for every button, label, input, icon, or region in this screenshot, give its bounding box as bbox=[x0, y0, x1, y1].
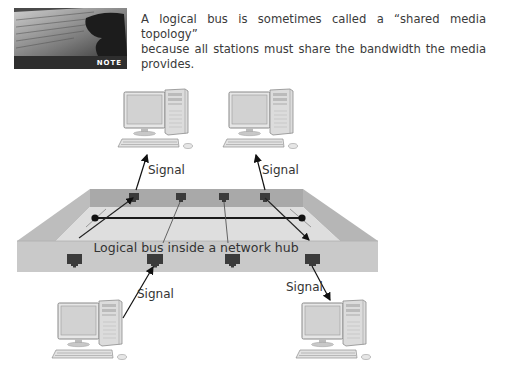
computer-bottom-right-icon bbox=[296, 300, 371, 360]
signal-label-top-right: Signal bbox=[262, 163, 299, 177]
signal-label-bottom-right: Signal bbox=[286, 280, 323, 294]
signal-arrow-top-left bbox=[136, 155, 147, 190]
bus-terminator-left bbox=[91, 214, 98, 221]
computer-top-right-icon bbox=[223, 89, 298, 149]
hub-label: Logical bus inside a network hub bbox=[93, 240, 298, 255]
signal-label-bottom-left: Signal bbox=[137, 287, 174, 301]
logical-bus-diagram: Logical bus inside a network hub Signal … bbox=[0, 0, 505, 374]
bus-terminator-right bbox=[298, 214, 305, 221]
computer-top-left-icon bbox=[118, 89, 193, 149]
computer-bottom-left-icon bbox=[52, 300, 127, 360]
signal-label-top-left: Signal bbox=[148, 163, 185, 177]
